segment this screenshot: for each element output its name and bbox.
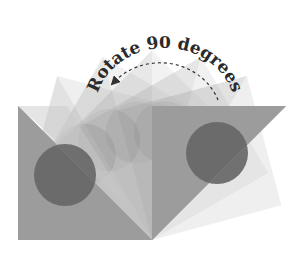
rotation-diagram: Rotate 90 degrees <box>0 0 305 253</box>
